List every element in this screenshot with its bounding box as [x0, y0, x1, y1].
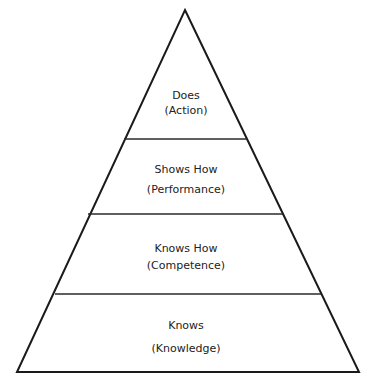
tier-subtitle: (Action)	[164, 104, 207, 117]
tier-title: Knows	[168, 319, 204, 332]
pyramid-diagram: Does (Action) Shows How (Performance) Kn…	[0, 0, 372, 385]
tier-subtitle: (Competence)	[147, 259, 225, 272]
tier-subtitle: (Performance)	[147, 183, 225, 196]
tier-title: Does	[172, 89, 200, 102]
tier-title: Knows How	[154, 242, 217, 255]
tier-title: Shows How	[155, 163, 218, 176]
tier-subtitle: (Knowledge)	[151, 342, 220, 355]
